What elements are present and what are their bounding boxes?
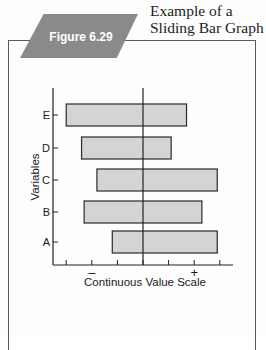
y-tick-label-e: E: [43, 109, 50, 121]
bar-a: [112, 231, 217, 253]
y-tick-label-d: D: [42, 142, 50, 154]
y-axis-label: Variables: [29, 153, 41, 200]
y-tick-label-a: A: [43, 236, 51, 248]
x-axis-label: Continuous Value Scale: [84, 276, 206, 288]
bar-e: [66, 104, 186, 126]
y-tick-label-c: C: [42, 174, 50, 186]
y-tick-label-b: B: [43, 206, 50, 218]
bar-c: [97, 169, 217, 191]
bar-d: [82, 137, 172, 159]
